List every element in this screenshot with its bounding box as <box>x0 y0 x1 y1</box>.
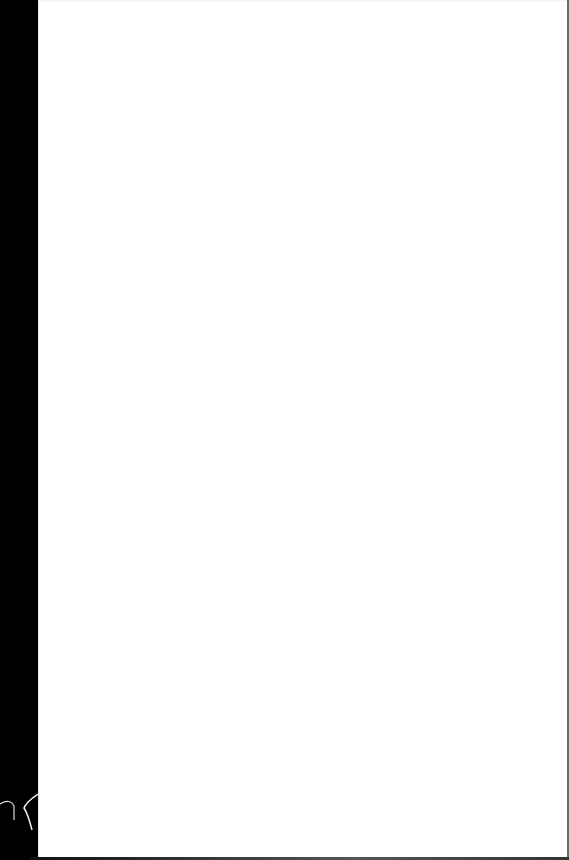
blank-page <box>38 0 568 857</box>
page-top-edge <box>39 0 568 2</box>
page-curl-icon <box>0 790 38 830</box>
scan-background-left <box>0 0 38 860</box>
